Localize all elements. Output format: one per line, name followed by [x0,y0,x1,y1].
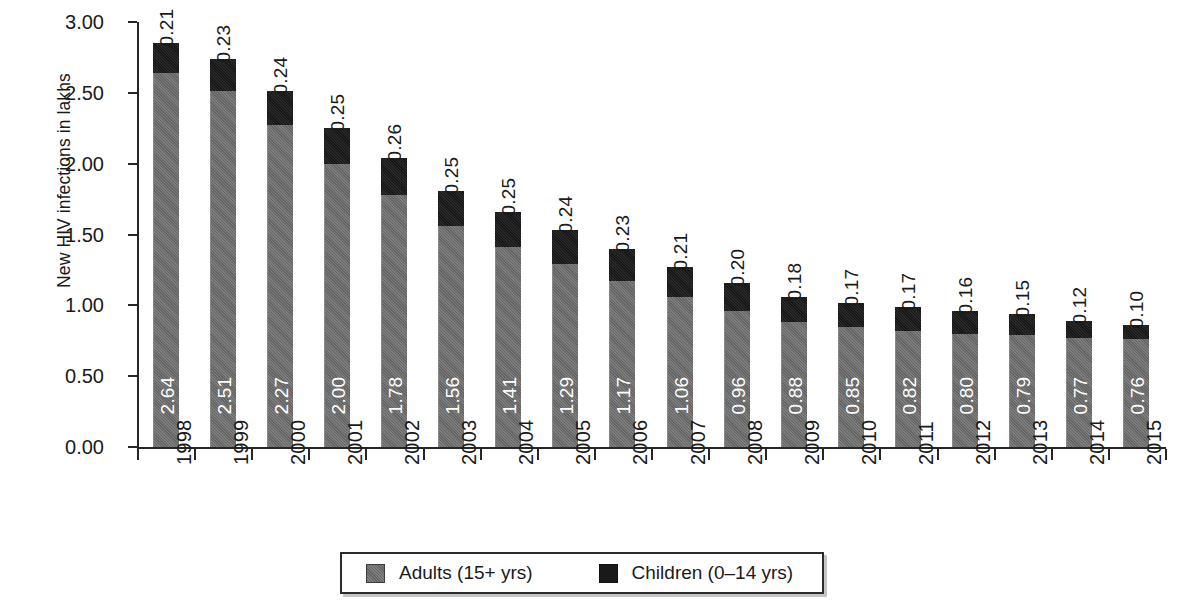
bar-value-label-adults: 0.80 [956,377,975,415]
bar-value-label-children: 0.18 [785,240,804,300]
bar-value-label-children: 0.25 [328,72,347,132]
y-axis-tick-label: 2.00 [18,154,104,174]
x-axis-tick [594,449,596,460]
y-axis-tick [128,21,137,23]
x-axis-category-label: 2006 [630,420,650,465]
bar-segment-children[interactable]: 0.25 [495,212,521,247]
bar-value-label-children: 0.25 [499,155,518,215]
bar-stack[interactable]: 0.231.17 [609,249,635,447]
bar-stack[interactable]: 0.212.64 [153,43,179,447]
bar-stack[interactable]: 0.242.27 [267,91,293,447]
y-axis-tick [128,92,137,94]
bar-value-label-children: 0.21 [671,211,690,271]
legend-label-adults: Adults (15+ yrs) [399,562,533,584]
bar-segment-children[interactable]: 0.15 [1009,314,1035,335]
x-axis-tick [1165,449,1167,460]
bar-segment-adults[interactable]: 2.27 [267,125,293,447]
bar-stack[interactable]: 0.261.78 [381,158,407,447]
y-axis-tick-label: 0.00 [18,437,104,457]
bar-value-label-children: 0.10 [1127,269,1146,329]
bar-segment-children[interactable]: 0.23 [609,249,635,282]
x-axis-tick [1108,449,1110,460]
bar-segment-children[interactable]: 0.25 [324,128,350,163]
x-axis-tick [994,449,996,460]
bar-value-label-adults: 0.82 [899,377,918,415]
y-axis-tick [128,375,137,377]
bar-value-label-adults: 0.88 [785,377,804,415]
bar-segment-children[interactable]: 0.24 [552,230,578,264]
x-axis-category-label: 2005 [573,420,593,465]
bar-value-label-adults: 0.96 [728,377,747,415]
bar-value-label-adults: 2.00 [328,377,347,415]
bar-value-label-children: 0.15 [1013,257,1032,317]
legend-swatch-adults-icon [366,564,385,583]
bar-segment-children[interactable]: 0.16 [952,311,978,334]
x-axis-tick [651,449,653,460]
bar-segment-children[interactable]: 0.10 [1123,325,1149,339]
x-axis-category-label: 1998 [174,420,194,465]
x-axis-category-label: 2003 [459,420,479,465]
bar-value-label-children: 0.24 [271,35,290,95]
bar-value-label-children: 0.20 [728,226,747,286]
bar-segment-children[interactable]: 0.26 [381,158,407,195]
bar-value-label-adults: 2.64 [157,377,176,415]
y-axis-tick [128,446,137,448]
bar-segment-adults[interactable]: 1.41 [495,247,521,447]
bar-segment-adults[interactable]: 2.64 [153,73,179,447]
y-axis-tick [128,304,137,306]
bar-value-label-children: 0.17 [842,246,861,306]
x-axis-tick [137,449,139,460]
bar-stack[interactable]: 0.252.00 [324,128,350,447]
bar-segment-children[interactable]: 0.21 [667,267,693,297]
x-axis-tick [423,449,425,460]
x-axis-tick [937,449,939,460]
x-axis-category-label: 2011 [916,421,936,465]
bar-value-label-children: 0.26 [385,102,404,162]
x-axis-category-label: 2009 [802,420,822,465]
bar-segment-adults[interactable]: 1.56 [438,226,464,447]
legend-label-children: Children (0–14 yrs) [632,562,794,584]
bar-value-label-children: 0.23 [214,2,233,62]
bar-stack[interactable]: 0.251.41 [495,212,521,447]
bar-segment-children[interactable]: 0.24 [267,91,293,125]
x-axis-category-label: 2000 [288,420,308,465]
y-axis-tick [128,163,137,165]
bar-segment-adults[interactable]: 2.00 [324,164,350,447]
x-axis-category-label: 1999 [231,420,251,465]
bar-value-label-children: 0.23 [613,192,632,252]
bar-value-label-adults: 1.06 [671,377,690,415]
x-axis-category-label: 2001 [345,420,365,465]
bar-segment-children[interactable]: 0.20 [724,283,750,311]
bar-stack[interactable]: 0.251.56 [438,191,464,447]
y-axis-tick-label: 2.50 [18,83,104,103]
x-axis-category-label: 2013 [1030,420,1050,465]
bar-segment-children[interactable]: 0.21 [153,43,179,73]
bar-segment-children[interactable]: 0.17 [895,307,921,331]
bar-value-label-children: 0.25 [442,134,461,194]
bar-value-label-adults: 2.27 [271,377,290,415]
bar-stack[interactable]: 0.241.29 [552,230,578,447]
y-axis-tick-label: 1.00 [18,295,104,315]
bar-value-label-children: 0.16 [956,255,975,315]
bar-segment-adults[interactable]: 1.78 [381,195,407,447]
bar-value-label-adults: 1.41 [499,377,518,415]
bar-segment-adults[interactable]: 2.51 [210,91,236,447]
bar-segment-children[interactable]: 0.23 [210,59,236,92]
x-axis-tick [480,449,482,460]
bar-value-label-adults: 2.51 [214,377,233,415]
legend-swatch-children-icon [599,564,618,583]
bar-stack[interactable]: 0.232.51 [210,59,236,447]
x-axis-category-label: 2012 [973,420,993,465]
bar-value-label-children: 0.12 [1070,264,1089,324]
bar-value-label-adults: 0.85 [842,377,861,415]
bar-segment-children[interactable]: 0.18 [781,297,807,323]
y-axis-title: New HIV infections in lakhs [54,21,75,341]
bar-value-label-children: 0.24 [556,174,575,234]
bar-value-label-adults: 1.56 [442,377,461,415]
bar-segment-children[interactable]: 0.25 [438,191,464,226]
bar-segment-children[interactable]: 0.12 [1066,321,1092,338]
legend-entry-adults: Adults (15+ yrs) [366,554,533,592]
bar-segment-children[interactable]: 0.17 [838,303,864,327]
bar-value-label-adults: 1.78 [385,377,404,415]
bar-value-label-children: 0.17 [899,250,918,310]
